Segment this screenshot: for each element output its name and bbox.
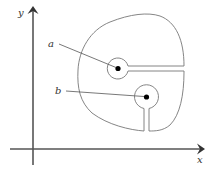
y-axis-label: y (17, 7, 24, 18)
point-a-leader (59, 44, 116, 68)
point-a-marker (115, 66, 120, 71)
point-a: a (48, 38, 121, 71)
point-a-label: a (48, 38, 54, 49)
point-b-label: b (55, 85, 61, 96)
diagram-figure: y x a b (0, 0, 211, 174)
axes: y x (10, 6, 205, 165)
point-b-leader (66, 91, 144, 97)
point-b-marker (144, 94, 149, 99)
x-axis-label: x (197, 154, 203, 165)
region-contour (78, 14, 184, 131)
